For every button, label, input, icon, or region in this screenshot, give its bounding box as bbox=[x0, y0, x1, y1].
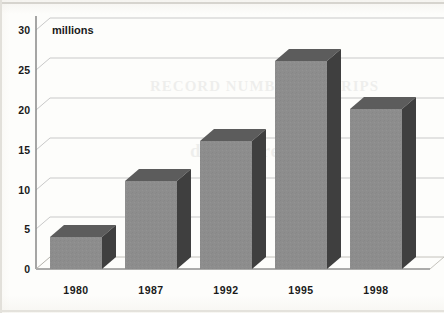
bar-chart-plot: 30 25 20 15 10 5 0 millions bbox=[0, 0, 444, 313]
y-tick-0: 0 bbox=[24, 263, 30, 275]
y-tick-5: 5 bbox=[24, 223, 30, 235]
x-tick-1992: 1992 bbox=[213, 284, 238, 296]
bar-1998[interactable] bbox=[350, 97, 416, 269]
bar-1998-texture bbox=[350, 109, 402, 269]
x-tick-1987: 1987 bbox=[138, 284, 163, 296]
y-tick-20: 20 bbox=[18, 104, 30, 116]
bar-1987[interactable] bbox=[125, 169, 191, 269]
x-tick-1995: 1995 bbox=[288, 284, 313, 296]
y-tick-10: 10 bbox=[18, 184, 30, 196]
floor-left-edge bbox=[36, 257, 50, 269]
bar-1995[interactable] bbox=[275, 49, 341, 269]
chart-container: RECORD NUMBER OF TRIPS departures bbox=[0, 0, 444, 313]
bar-1992-side bbox=[252, 129, 266, 269]
bar-1987-side bbox=[177, 169, 191, 269]
bar-1980-texture bbox=[50, 237, 102, 269]
bar-1992[interactable] bbox=[200, 129, 266, 269]
y-tick-30: 30 bbox=[18, 24, 30, 36]
y-axis-title: millions bbox=[52, 24, 94, 36]
x-tick-1980: 1980 bbox=[63, 284, 88, 296]
y-tick-25: 25 bbox=[18, 64, 30, 76]
x-axis-tick-labels: 1980 1987 1992 1995 1998 bbox=[63, 284, 388, 296]
y-tick-15: 15 bbox=[18, 144, 30, 156]
bar-1992-texture bbox=[200, 141, 252, 269]
bar-1998-side bbox=[402, 97, 416, 269]
bar-1987-texture bbox=[125, 181, 177, 269]
y-axis-tick-labels: 30 25 20 15 10 5 0 bbox=[18, 24, 30, 275]
floor-right-edge bbox=[430, 257, 444, 269]
bar-1995-side bbox=[327, 49, 341, 269]
bar-1980[interactable] bbox=[50, 225, 116, 269]
x-tick-1998: 1998 bbox=[363, 284, 388, 296]
bar-1995-texture bbox=[275, 61, 327, 269]
